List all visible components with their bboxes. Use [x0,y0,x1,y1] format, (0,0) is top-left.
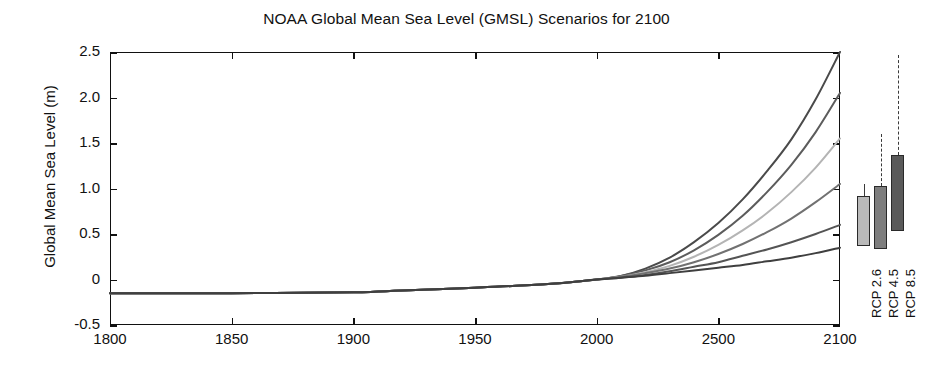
rcp-bar-label: RCP 8.5 [903,269,918,318]
rcp-whisker [864,184,865,196]
rcp-bar-label: RCP 2.6 [869,269,884,318]
scenario-curve [110,138,840,293]
scenario-curve [110,52,840,293]
rcp-bar-label: RCP 4.5 [886,269,901,318]
chart-figure: NOAA Global Mean Sea Level (GMSL) Scenar… [0,0,933,381]
scenario-curve [110,248,840,294]
rcp-whisker [898,55,899,155]
rcp-whisker [881,134,882,186]
rcp-bar [874,186,887,250]
rcp-bar [891,155,904,231]
rcp-bar [857,196,870,246]
scenario-curve [110,225,840,293]
scenario-curve [110,93,840,293]
scenario-curves [0,0,933,381]
